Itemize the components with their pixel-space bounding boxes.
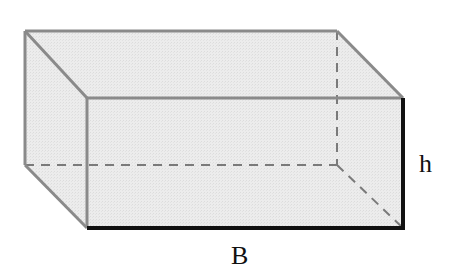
label-height: h: [419, 149, 432, 178]
prism-diagram: h B: [0, 0, 456, 279]
prism-body: [25, 31, 403, 228]
label-base: B: [231, 241, 248, 270]
